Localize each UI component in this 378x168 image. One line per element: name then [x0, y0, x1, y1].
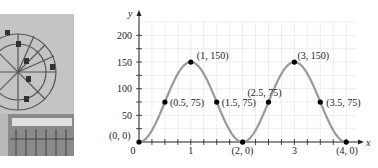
svg-text:150: 150	[117, 57, 132, 68]
svg-text:(0, 0): (0, 0)	[109, 130, 131, 142]
svg-text:(1.5, 75): (1.5, 75)	[222, 97, 256, 109]
svg-text:100: 100	[117, 83, 132, 94]
svg-text:(3.5, 75): (3.5, 75)	[326, 97, 360, 109]
svg-text:200: 200	[117, 30, 132, 41]
svg-text:(1, 150): (1, 150)	[197, 50, 229, 62]
svg-text:0: 0	[131, 145, 136, 156]
sinusoid-chart: 50100150200013yx (0, 0)(0.5, 75)(1, 150)…	[0, 0, 378, 168]
svg-text:3: 3	[292, 145, 297, 156]
svg-text:y: y	[127, 8, 133, 19]
data-points: (0, 0)(0.5, 75)(1, 150)(1.5, 75)(2, 0)(2…	[109, 50, 360, 157]
svg-text:1: 1	[188, 145, 193, 156]
svg-text:50: 50	[122, 110, 132, 121]
svg-text:(0.5, 75): (0.5, 75)	[170, 97, 204, 109]
svg-text:(3, 150): (3, 150)	[297, 50, 329, 62]
svg-text:(4, 0): (4, 0)	[336, 145, 358, 157]
svg-text:(2, 0): (2, 0)	[232, 145, 254, 157]
svg-text:x: x	[365, 137, 371, 148]
grid	[139, 22, 357, 142]
svg-text:(2.5, 75): (2.5, 75)	[248, 87, 282, 99]
